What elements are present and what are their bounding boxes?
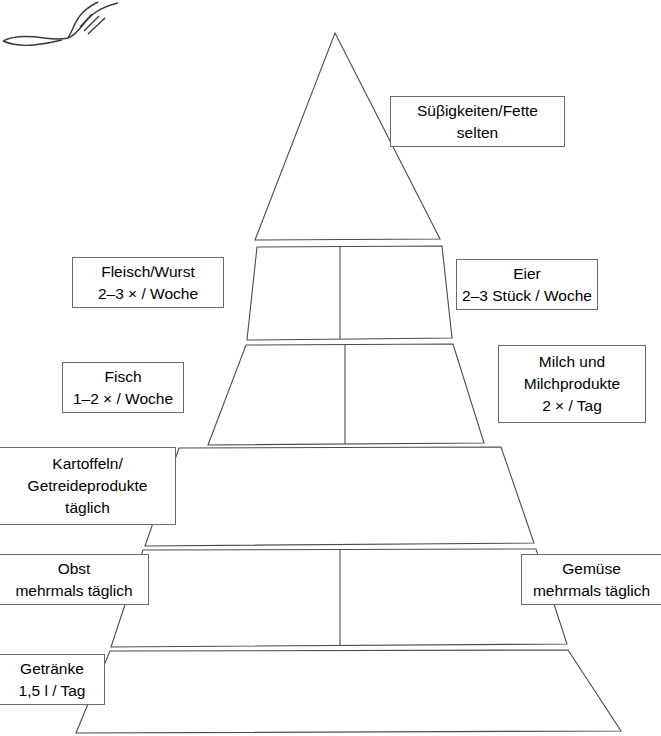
label-potatoes-grains[interactable]: Kartoffeln/ Getreideprodukte täglich: [0, 447, 176, 525]
label-sweets-title: Süβigkeiten/Fette: [417, 100, 538, 122]
label-dairy-frequency: 2 × / Tag: [542, 395, 602, 417]
pyramid-tier-2-meat-eggs[interactable]: [247, 246, 452, 340]
label-vegetables-frequency: mehrmals täglich: [533, 580, 650, 602]
label-meat-frequency: 2–3 × / Woche: [98, 283, 198, 305]
label-sweets-frequency: selten: [457, 122, 498, 144]
label-fish-title: Fisch: [104, 366, 141, 388]
label-fish[interactable]: Fisch 1–2 × / Woche: [62, 362, 184, 413]
label-beverages[interactable]: Getränke 1,5 l / Tag: [0, 654, 105, 705]
label-vegetables[interactable]: Gemüse mehrmals täglich: [521, 554, 661, 605]
label-eggs[interactable]: Eier 2–3 Stück / Woche: [456, 259, 598, 310]
label-dairy[interactable]: Milch und Milchprodukte 2 × / Tag: [498, 345, 646, 423]
label-beverages-title: Getränke: [20, 658, 84, 680]
label-vegetables-title: Gemüse: [562, 558, 621, 580]
pyramid-tier-6-beverages[interactable]: [76, 650, 621, 733]
food-pyramid-diagram: Süβigkeiten/Fette selten Fleisch/Wurst 2…: [0, 0, 661, 736]
label-eggs-title: Eier: [513, 263, 541, 285]
label-meat-title: Fleisch/Wurst: [101, 261, 195, 283]
label-dairy-title: Milch und: [539, 351, 605, 373]
label-potatoes-title: Kartoffeln/: [52, 453, 122, 475]
label-beverages-frequency: 1,5 l / Tag: [19, 680, 86, 702]
label-sweets-fats[interactable]: Süβigkeiten/Fette selten: [390, 96, 565, 147]
label-fruit-title: Obst: [58, 558, 91, 580]
label-fruit[interactable]: Obst mehrmals täglich: [0, 554, 149, 605]
label-dairy-title2: Milchprodukte: [524, 373, 621, 395]
label-fish-frequency: 1–2 × / Woche: [73, 388, 173, 410]
pyramid-tier-5-fruit-vegetables[interactable]: [111, 549, 567, 647]
label-potatoes-title2: Getreideprodukte: [28, 475, 148, 497]
label-eggs-frequency: 2–3 Stück / Woche: [462, 285, 592, 307]
pyramid-tier-4-potatoes-grains[interactable]: [145, 447, 534, 546]
pyramid-tier-3-fish-dairy[interactable]: [208, 344, 484, 445]
scan-artifact: [3, 2, 118, 45]
label-potatoes-frequency: täglich: [65, 497, 110, 519]
label-fruit-frequency: mehrmals täglich: [15, 580, 132, 602]
label-meat[interactable]: Fleisch/Wurst 2–3 × / Woche: [72, 257, 224, 308]
